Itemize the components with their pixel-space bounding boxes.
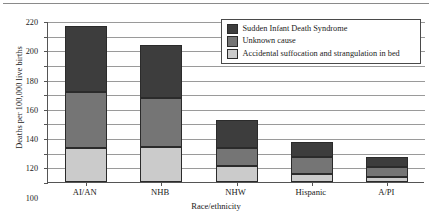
bar-api <box>366 157 408 182</box>
legend-item[interactable]: Sudden Infant Death Syndrome <box>227 23 415 35</box>
x-tick-label: AI/AN <box>73 187 97 197</box>
chart-legend: Sudden Infant Death SyndromeUnknown caus… <box>221 19 421 64</box>
figure: Deaths per 100,000 live births 020406080… <box>0 0 432 217</box>
bar-segment <box>65 92 107 148</box>
y-tick-mark: 60 <box>44 139 48 140</box>
y-tick-mark: 20 <box>44 168 48 169</box>
bar-segment <box>65 148 107 182</box>
legend-item-label: Accidental suffocation and strangulation… <box>243 50 400 58</box>
bar-segment <box>291 142 333 157</box>
x-tick-label: NHW <box>225 187 246 197</box>
legend-item-label: Sudden Infant Death Syndrome <box>243 25 348 33</box>
y-tick-mark: 120 <box>44 95 48 96</box>
page-separator-rule <box>3 3 429 4</box>
y-tick-mark: 160 <box>44 66 48 67</box>
legend-item-label: Unknown cause <box>243 37 296 45</box>
bar-segment <box>216 120 258 148</box>
x-tick-mark <box>387 182 388 186</box>
y-tick-mark: 220 <box>44 22 48 23</box>
y-tick-mark: 180 <box>44 51 48 52</box>
y-tick-mark: 40 <box>44 154 48 155</box>
bar-segment <box>366 167 408 177</box>
legend-swatch-icon <box>227 49 238 60</box>
y-axis-title: Deaths per 100,000 live births <box>15 23 24 173</box>
bar-segment <box>140 45 182 98</box>
x-tick-mark <box>312 182 313 186</box>
bar-segment <box>216 148 258 166</box>
y-tick-mark: 200 <box>44 37 48 38</box>
y-tick-mark: 0 <box>44 183 48 184</box>
x-tick-mark <box>161 182 162 186</box>
bar-segment <box>291 174 333 182</box>
y-tick-label: 160 <box>26 107 38 115</box>
x-axis-title: Race/ethnicity <box>0 201 432 211</box>
bar-segment <box>140 98 182 147</box>
y-tick-label: 140 <box>26 136 38 144</box>
bar-segment <box>291 157 333 174</box>
legend-swatch-icon <box>227 24 238 35</box>
x-tick-mark <box>86 182 87 186</box>
x-tick-label: NHB <box>151 187 169 197</box>
legend-item[interactable]: Accidental suffocation and strangulation… <box>227 48 415 60</box>
bar-hispanic <box>291 142 333 182</box>
x-tick-label: Hispanic <box>296 187 327 197</box>
y-tick-label: 120 <box>26 165 38 173</box>
bar-segment <box>65 26 107 92</box>
y-tick-mark: 80 <box>44 124 48 125</box>
legend-swatch-icon <box>227 36 238 47</box>
x-tick-label: A/PI <box>378 187 394 197</box>
y-tick-label: 180 <box>26 77 38 85</box>
x-tick-mark <box>237 182 238 186</box>
y-tick-label: 200 <box>26 48 38 56</box>
bar-aian <box>65 26 107 182</box>
y-tick-mark: 140 <box>44 81 48 82</box>
y-tick-label: 220 <box>26 19 38 27</box>
bar-nhw <box>216 120 258 182</box>
bar-segment <box>216 166 258 182</box>
legend-item[interactable]: Unknown cause <box>227 35 415 47</box>
bar-segment <box>140 147 182 182</box>
bar-nhb <box>140 45 182 182</box>
y-tick-mark: 100 <box>44 110 48 111</box>
bar-segment <box>366 157 408 167</box>
